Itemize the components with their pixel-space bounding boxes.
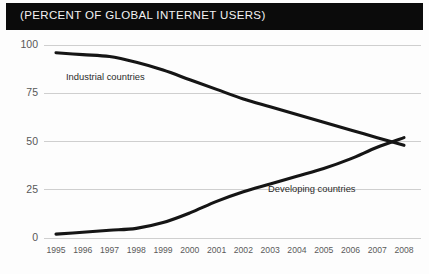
plot-area: 0255075100 19951996199719981999200020012… <box>0 0 429 274</box>
series-line-industrial <box>56 53 404 146</box>
series-label-developing: Developing countries <box>268 183 356 194</box>
series-curve-group <box>0 0 429 274</box>
chart-figure: (PERCENT OF GLOBAL INTERNET USERS) 02550… <box>0 0 429 274</box>
series-label-industrial: Industrial countries <box>66 71 145 82</box>
